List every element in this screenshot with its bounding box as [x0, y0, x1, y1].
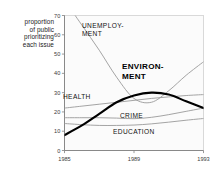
series-label-unemployment-line-1: UNEMPLOY-: [82, 22, 124, 30]
series-label-unemployment: UNEMPLOY- MENT: [82, 22, 124, 38]
series-label-environment: ENVIRON- MENT: [122, 62, 164, 81]
series-label-education: EDUCATION: [113, 128, 155, 136]
svg-text:70: 70: [54, 13, 60, 19]
x-axis-ticks: 198519891993: [58, 151, 209, 162]
svg-text:50: 50: [54, 51, 60, 57]
series-label-unemployment-line-2: MENT: [82, 30, 124, 38]
line-chart: proportion of public prioritizing each i…: [0, 0, 211, 171]
svg-text:1985: 1985: [58, 156, 70, 162]
series-label-health: HEALTH: [63, 93, 91, 101]
svg-text:0: 0: [57, 148, 60, 154]
svg-text:1989: 1989: [128, 156, 140, 162]
series-label-environment-line-1: ENVIRON-: [122, 62, 164, 72]
svg-text:10: 10: [54, 128, 60, 134]
y-axis-ticks: 010203040506070: [54, 13, 64, 154]
series-label-crime-line-1: CRIME: [120, 112, 143, 120]
series-label-health-line-1: HEALTH: [63, 93, 91, 101]
svg-text:40: 40: [54, 70, 60, 76]
svg-text:20: 20: [54, 109, 60, 115]
svg-text:30: 30: [54, 90, 60, 96]
series-label-education-line-1: EDUCATION: [113, 128, 155, 136]
series-label-crime: CRIME: [120, 112, 143, 120]
svg-text:1993: 1993: [197, 156, 209, 162]
series-label-environment-line-2: MENT: [122, 72, 164, 82]
svg-text:60: 60: [54, 32, 60, 38]
